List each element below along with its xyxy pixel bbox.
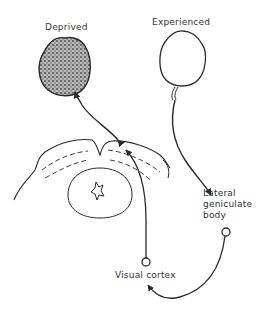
cortex-layer-dashed-2 — [45, 160, 88, 178]
cortex-axon-arrow — [126, 150, 146, 258]
cortex-layer-dashed-4 — [110, 160, 150, 180]
label-experienced: Experienced — [152, 17, 210, 28]
label-lgn-line1: Lateral — [203, 188, 236, 199]
deprived-pathway-arrow — [75, 92, 118, 140]
lgn-cell — [222, 228, 230, 236]
cortex-right-edge — [163, 160, 169, 178]
label-visual-cortex: Visual cortex — [115, 270, 176, 281]
label-lgn-line3: body — [203, 210, 226, 221]
label-deprived: Deprived — [45, 22, 88, 33]
inner-oval — [68, 168, 132, 218]
experienced-pathway-arrow — [172, 100, 211, 195]
deprived-eye — [39, 37, 90, 95]
visual-cortex-cell — [142, 258, 150, 266]
label-lgn-line2: geniculate — [203, 199, 252, 210]
lgn-to-cortex-arrow — [148, 236, 225, 298]
cortex-layer-dashed-1 — [42, 151, 88, 170]
experienced-nerve-stub — [172, 87, 178, 100]
central-canal — [91, 182, 104, 200]
experienced-eye — [160, 31, 206, 86]
